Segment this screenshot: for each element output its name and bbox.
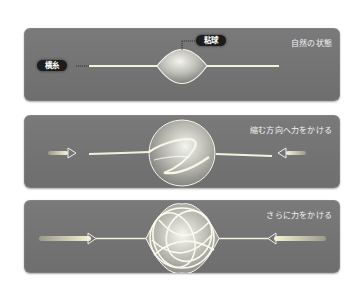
glue-droplet [157,50,207,84]
left-arrow-icon [268,233,326,244]
thread-label: 横糸 [37,60,67,71]
right-arrow-icon [39,233,96,244]
left-arrow-icon [278,148,306,158]
panel-more-compressed: さらに力をかける [24,200,340,273]
right-arrow-icon [48,148,76,158]
panel-natural-state: 粘球 横糸 自然の状態 [24,28,340,101]
panel-caption: さらに力をかける [266,209,332,220]
panel-caption: 自然の状態 [291,37,332,48]
glue-droplet-label: 粘球 [196,35,226,46]
panel-compressed: 縮む方向へ力をかける [24,115,340,188]
panel-caption: 縮む方向へ力をかける [250,124,332,135]
